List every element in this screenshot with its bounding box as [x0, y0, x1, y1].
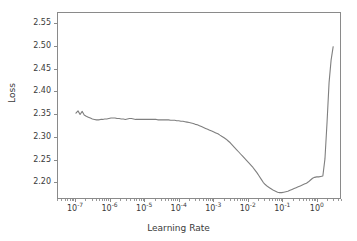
x-tick-minor-mark [130, 199, 131, 201]
x-tick-minor-mark [246, 199, 247, 201]
loss-curve-svg [58, 13, 340, 198]
y-tick-mark [54, 160, 57, 161]
x-tick-minor-mark [281, 199, 282, 201]
x-tick-minor-mark [333, 199, 334, 201]
y-tick-label: 2.40 [0, 87, 51, 95]
x-tick-minor-mark [195, 199, 196, 201]
x-tick-minor-mark [73, 199, 74, 201]
x-tick-label: 10-2 [240, 205, 256, 213]
x-tick-minor-mark [230, 199, 231, 201]
x-tick-label: 10-6 [102, 205, 118, 213]
y-tick-mark [54, 46, 57, 47]
x-tick-minor-mark [303, 199, 304, 201]
x-tick-minor-mark [309, 199, 310, 201]
x-tick-minor-mark [237, 199, 238, 201]
x-tick-minor-mark [208, 199, 209, 201]
x-tick-label: 10-7 [67, 205, 83, 213]
x-tick-minor-mark [206, 199, 207, 201]
x-tick-minor-mark [92, 199, 93, 201]
x-tick-minor-mark [242, 199, 243, 201]
learning-rate-finder-figure: Loss 2.202.252.302.352.402.452.502.55 10… [0, 0, 357, 241]
x-tick-minor-mark [57, 199, 58, 201]
x-tick-minor-mark [108, 199, 109, 201]
x-tick-minor-mark [134, 199, 135, 201]
x-tick-minor-mark [126, 199, 127, 201]
x-tick-mark [75, 199, 76, 202]
x-tick-minor-mark [277, 199, 278, 201]
x-tick-minor-mark [341, 199, 342, 201]
x-tick-minor-mark [102, 199, 103, 201]
x-tick-mark [144, 199, 145, 202]
x-tick-minor-mark [258, 199, 259, 201]
x-tick-minor-mark [173, 199, 174, 201]
x-tick-mark [110, 199, 111, 202]
x-tick-label: 10-4 [171, 205, 187, 213]
x-tick-minor-mark [293, 199, 294, 201]
x-tick-minor-mark [161, 199, 162, 201]
y-tick-label: 2.25 [0, 156, 51, 164]
x-tick-mark [282, 199, 283, 202]
x-tick-minor-mark [224, 199, 225, 201]
x-tick-minor-mark [269, 199, 270, 201]
loss-curve-line [76, 47, 333, 193]
x-tick-minor-mark [189, 199, 190, 201]
x-tick-minor-mark [171, 199, 172, 201]
x-tick-minor-mark [155, 199, 156, 201]
x-tick-label: 100 [310, 205, 324, 213]
x-tick-label: 10-1 [274, 205, 290, 213]
x-tick-minor-mark [338, 199, 339, 201]
x-tick-minor-mark [299, 199, 300, 201]
x-tick-minor-mark [327, 199, 328, 201]
x-tick-minor-mark [85, 199, 86, 201]
x-tick-minor-mark [143, 199, 144, 201]
x-tick-minor-mark [234, 199, 235, 201]
x-tick-minor-mark [120, 199, 121, 201]
x-tick-minor-mark [315, 199, 316, 201]
x-tick-label: 10-5 [136, 205, 152, 213]
x-tick-minor-mark [240, 199, 241, 201]
x-tick-minor-mark [168, 199, 169, 201]
x-tick-minor-mark [312, 199, 313, 201]
x-tick-minor-mark [96, 199, 97, 201]
plot-area [57, 12, 341, 199]
y-tick-mark [54, 182, 57, 183]
x-tick-mark [317, 199, 318, 202]
x-tick-minor-mark [99, 199, 100, 201]
y-tick-label: 2.55 [0, 19, 51, 27]
x-tick-minor-mark [65, 199, 66, 201]
y-tick-mark [54, 69, 57, 70]
y-tick-label: 2.30 [0, 133, 51, 141]
x-tick-mark [213, 199, 214, 202]
x-tick-mark [179, 199, 180, 202]
x-tick-mark [248, 199, 249, 202]
y-tick-mark [54, 91, 57, 92]
x-tick-minor-mark [199, 199, 200, 201]
y-tick-mark [54, 114, 57, 115]
x-tick-minor-mark [212, 199, 213, 201]
x-tick-minor-mark [67, 199, 68, 201]
x-tick-minor-mark [272, 199, 273, 201]
y-tick-mark [54, 23, 57, 24]
y-tick-label: 2.45 [0, 65, 51, 73]
y-tick-label: 2.50 [0, 42, 51, 50]
x-tick-minor-mark [306, 199, 307, 201]
x-tick-minor-mark [264, 199, 265, 201]
x-tick-minor-mark [136, 199, 137, 201]
x-tick-minor-mark [104, 199, 105, 201]
y-tick-label: 2.20 [0, 178, 51, 186]
x-tick-minor-mark [139, 199, 140, 201]
y-tick-label: 2.35 [0, 110, 51, 118]
x-tick-minor-mark [70, 199, 71, 201]
x-axis-label: Learning Rate [0, 223, 357, 233]
y-tick-mark [54, 137, 57, 138]
x-tick-minor-mark [165, 199, 166, 201]
x-tick-label: 10-3 [205, 205, 221, 213]
x-tick-minor-mark [275, 199, 276, 201]
x-tick-minor-mark [177, 199, 178, 201]
x-tick-minor-mark [203, 199, 204, 201]
x-tick-minor-mark [61, 199, 62, 201]
